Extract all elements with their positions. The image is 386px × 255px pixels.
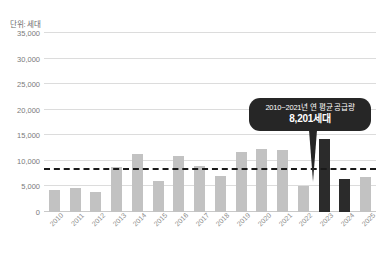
- y-axis-tick-label: 25,000: [17, 80, 40, 89]
- y-axis-tick-label: 15,000: [17, 131, 40, 140]
- x-axis-tick-label: 2013: [111, 211, 127, 227]
- unit-label: 단위: 세대: [10, 18, 41, 29]
- y-axis-tick-label: 0: [36, 208, 40, 217]
- bar-2022[interactable]: [298, 186, 309, 212]
- x-axis-tick-label: 2022: [298, 211, 314, 227]
- x-axis-label-slot: 2018: [210, 214, 231, 252]
- x-axis-tick-label: 2014: [132, 211, 148, 227]
- y-axis-labels: 05,00010,00015,00020,00025,00030,00035,0…: [0, 33, 40, 212]
- x-axis-label-slot: 2024: [335, 214, 356, 252]
- bar-2021[interactable]: [277, 150, 288, 212]
- x-axis-tick-label: 2018: [215, 211, 231, 227]
- x-axis-tick-label: 2017: [194, 211, 210, 227]
- x-axis-label-slot: 2011: [65, 214, 86, 252]
- x-axis-label-slot: 2015: [148, 214, 169, 252]
- average-reference-line: [44, 168, 376, 170]
- x-axis-tick-label: 2010: [49, 211, 65, 227]
- x-axis-tick-label: 2011: [70, 212, 86, 228]
- bar-2023[interactable]: [319, 139, 330, 212]
- bar-2011[interactable]: [70, 188, 81, 212]
- x-axis-label-slot: 2010: [44, 214, 65, 252]
- x-axis-tick-label: 2023: [319, 211, 335, 227]
- bar-slot: [106, 33, 127, 212]
- x-axis-tick-label: 2019: [236, 211, 252, 227]
- x-axis-label-slot: 2020: [252, 214, 273, 252]
- bar-slot: [65, 33, 86, 212]
- bar-2012[interactable]: [90, 192, 101, 212]
- bar-2024[interactable]: [339, 179, 350, 212]
- x-axis-tick-label: 2016: [173, 211, 189, 227]
- x-axis-label-slot: 2017: [189, 214, 210, 252]
- x-axis-tick-label: 2015: [153, 211, 169, 227]
- bar-2019[interactable]: [236, 152, 247, 212]
- x-axis-label-slot: 2016: [169, 214, 190, 252]
- average-callout: 2010~2021년 연 평균 공급량 8,201세대: [249, 98, 371, 131]
- x-axis-tick-label: 2025: [360, 211, 376, 227]
- bar-2018[interactable]: [215, 176, 226, 212]
- y-axis-tick-label: 10,000: [17, 156, 40, 165]
- y-axis-tick-label: 20,000: [17, 105, 40, 114]
- x-axis-tick-label: 2020: [256, 211, 272, 227]
- bar-slot: [44, 33, 65, 212]
- bar-2025[interactable]: [360, 177, 371, 212]
- x-axis-label-slot: 2023: [314, 214, 335, 252]
- x-axis-tick-label: 2024: [339, 211, 355, 227]
- bar-slot: [169, 33, 190, 212]
- callout-title: 2010~2021년 연 평균 공급량: [253, 103, 367, 112]
- x-axis-labels: 2010201120122013201420152016201720182019…: [44, 214, 376, 252]
- bar-2014[interactable]: [132, 154, 143, 212]
- x-axis-tick-label: 2012: [90, 211, 106, 227]
- bar-slot: [148, 33, 169, 212]
- bar-slot: [210, 33, 231, 212]
- bar-slot: [86, 33, 107, 212]
- callout-pointer-icon: [309, 130, 317, 182]
- bar-2016[interactable]: [173, 156, 184, 212]
- x-axis-label-slot: 2014: [127, 214, 148, 252]
- bar-slot: [189, 33, 210, 212]
- x-axis-label-slot: 2021: [272, 214, 293, 252]
- bar-slot: [127, 33, 148, 212]
- y-axis-tick-label: 30,000: [17, 54, 40, 63]
- bar-chart: 단위: 세대 05,00010,00015,00020,00025,00030,…: [0, 0, 386, 255]
- y-axis-tick-label: 35,000: [17, 29, 40, 38]
- bar-2015[interactable]: [153, 181, 164, 212]
- bar-2010[interactable]: [49, 190, 60, 212]
- x-axis-tick-label: 2021: [277, 211, 293, 227]
- x-axis-label-slot: 2022: [293, 214, 314, 252]
- x-axis-label-slot: 2025: [355, 214, 376, 252]
- callout-value: 8,201세대: [253, 112, 367, 125]
- y-axis-tick-label: 5,000: [21, 182, 40, 191]
- x-axis-label-slot: 2019: [231, 214, 252, 252]
- x-axis-label-slot: 2013: [106, 214, 127, 252]
- bar-2013[interactable]: [111, 167, 122, 212]
- bar-2017[interactable]: [194, 166, 205, 212]
- x-axis-label-slot: 2012: [86, 214, 107, 252]
- bar-2020[interactable]: [256, 149, 267, 212]
